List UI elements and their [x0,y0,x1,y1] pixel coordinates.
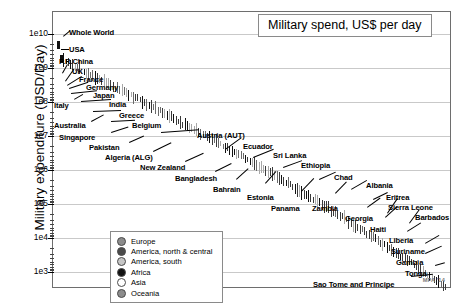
data-mark [243,153,244,159]
y-tick-minor [50,152,54,153]
leader-line [425,246,442,254]
leader-line [93,110,121,112]
data-mark [445,284,446,289]
data-mark [151,100,152,113]
data-mark [176,116,177,126]
gridline [53,136,450,137]
y-tick-minor [50,112,54,113]
y-tick-minor [50,50,54,51]
legend-label: America, north & central [131,247,212,256]
country-label: New Zealand [140,163,185,172]
leader-line [407,223,421,232]
leader-line [61,49,69,50]
data-mark [281,175,282,184]
gridline [53,170,450,171]
data-mark [315,194,316,203]
country-label: Bahrain [213,185,241,194]
data-mark [182,122,183,128]
data-mark [160,107,161,114]
country-label: Suriname [391,247,425,256]
leader-line [335,181,347,193]
data-mark [124,87,125,95]
y-tick-minor [50,267,54,268]
legend-item[interactable]: Oceania [117,288,212,298]
data-mark [277,171,278,184]
y-tick-minor [50,248,54,249]
country-label: Albania [366,181,393,190]
data-mark [389,245,390,252]
y-tick-minor [50,60,54,61]
data-mark [295,184,296,194]
data-mark [185,118,186,129]
y-tick-minor [50,220,54,221]
country-label: Australia [54,121,86,130]
y-tick-minor [50,262,54,263]
legend-label: Oceania [131,289,159,298]
data-mark [283,177,284,187]
data-mark [286,180,287,187]
y-tick-minor [50,160,54,161]
legend-item[interactable]: America, south [117,257,212,267]
data-mark [297,183,298,197]
data-mark [232,146,233,157]
data-mark [342,213,343,219]
legend-label: Africa [131,268,150,277]
leader-line [435,262,445,266]
data-mark [366,231,367,238]
country-label: Singapore [59,133,95,142]
legend-item[interactable]: Asia [117,278,212,288]
country-label: Bangladesh [175,174,217,183]
chart-title: Military spend, US$ per day [258,14,432,37]
data-mark [155,101,156,114]
data-mark [189,123,190,133]
data-mark [308,190,309,202]
legend-item[interactable]: America, north & central [117,246,212,256]
country-label: Algeria (ALG) [105,153,153,162]
legend-item[interactable]: Europe [117,236,212,246]
leader-line [351,180,367,190]
leader-line [153,142,171,152]
data-mark [144,99,145,107]
country-label: Chad [334,173,353,182]
y-tick [48,238,54,239]
data-mark [133,92,134,104]
country-label: Whole World [69,28,114,37]
country-label: Panama [271,204,300,213]
y-tick-minor [50,224,54,225]
gridline [53,68,450,69]
y-tick [48,204,54,205]
y-tick-minor [50,186,54,187]
data-mark [131,92,132,98]
y-tick-label: 1e8 [8,96,48,106]
data-mark [173,114,174,123]
y-tick [48,272,54,273]
country-label: Georgia [345,214,373,223]
y-tick-minor [50,94,54,95]
data-mark [252,158,253,168]
leader-line [111,126,128,133]
plot-frame: Whole WorldUSAP.R.ChinaUKFranceGermanyJa… [52,11,451,288]
y-tick-label: 1e4 [8,232,48,242]
data-mark [223,144,224,149]
data-mark [146,99,147,111]
data-mark [153,104,154,111]
country-label: Greece [119,111,144,120]
y-tick-minor [50,194,54,195]
legend-item[interactable]: Africa [117,267,212,277]
y-tick-minor [50,156,54,157]
y-tick-minor [50,58,54,59]
country-label: Ethiopia [301,161,330,170]
country-label: Zambia [312,204,338,213]
country-label: Liberia [389,236,413,245]
data-mark [119,86,120,94]
y-tick-minor [50,233,54,234]
data-mark [301,186,302,200]
y-tick-minor [50,199,54,200]
data-mark [279,172,280,185]
y-tick-label: 1e6 [8,164,48,174]
data-mark [362,226,363,232]
data-mark [378,236,379,245]
data-mark [234,149,235,155]
country-label: Estonia [247,193,274,202]
data-mark [220,141,221,146]
